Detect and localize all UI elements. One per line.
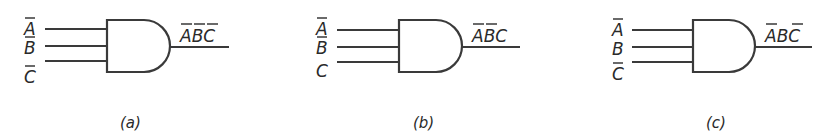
caption-c: (c) <box>706 114 726 132</box>
caption-b: (b) <box>413 114 434 132</box>
input-label-b-0: A <box>315 19 328 39</box>
gate-c: A B C ABC (c) <box>611 19 812 132</box>
output-label-b: ABC <box>471 26 507 46</box>
gate-b: A B C ABC (b) <box>315 18 520 132</box>
caption-a: (a) <box>120 114 141 132</box>
input-label-a-1: B <box>24 38 36 58</box>
output-label-c: ABC <box>764 26 800 46</box>
input-label-a-0: A <box>23 19 36 39</box>
input-label-a-2: C <box>24 67 36 87</box>
and-gate-body <box>399 20 462 72</box>
and-gate-body <box>693 20 755 72</box>
input-label-c-0: A <box>611 20 624 40</box>
input-label-c-2: C <box>612 64 624 84</box>
input-label-b-2: C <box>316 61 328 81</box>
input-label-b-1: B <box>316 38 328 58</box>
input-label-c-1: B <box>612 39 624 59</box>
and-gate-diagram: A B C ABC (a) A B C ABC (b) A <box>0 0 827 136</box>
and-gate-body <box>107 20 170 72</box>
gate-a: A B C ABC (a) <box>23 18 229 132</box>
output-label-a: ABC <box>179 26 215 46</box>
